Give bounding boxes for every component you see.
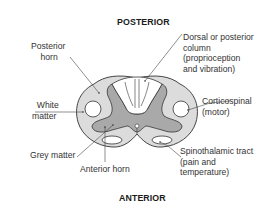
spinal-cord-diagram: POSTERIOR ANTERIOR: [0, 0, 274, 217]
label-corticospinal: Corticospinal (motor): [202, 96, 252, 117]
label-grey-matter: Grey matter: [30, 150, 75, 161]
label-white-matter: White matter: [32, 100, 59, 121]
corticospinal-tract-left: [85, 101, 101, 117]
label-spinothalamic: Spinothalamic tract (pain and temperatur…: [180, 146, 253, 178]
label-anterior-horn: Anterior horn: [80, 164, 130, 175]
label-dorsal-column: Dorsal or posterior column (propriocepti…: [183, 32, 254, 74]
central-canal: [135, 124, 139, 128]
corticospinal-tract-right: [173, 101, 189, 117]
label-posterior-horn: Posterior horn: [31, 41, 65, 62]
